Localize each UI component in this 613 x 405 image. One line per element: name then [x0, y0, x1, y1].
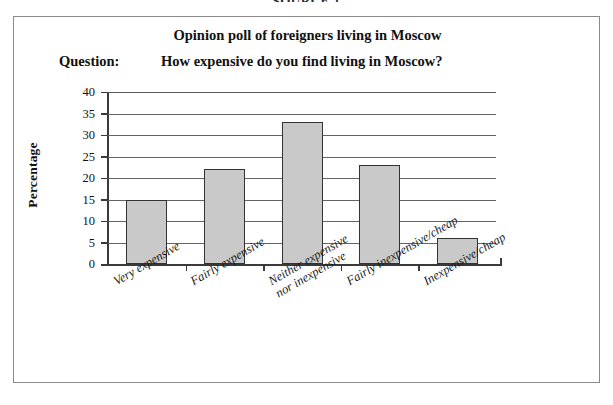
- y-tick-mark-15: [101, 199, 108, 201]
- y-tick-mark-5: [101, 242, 108, 244]
- y-tick-label-40: 40: [69, 86, 95, 98]
- y-axis-title: Percentage: [25, 125, 41, 225]
- y-tick-label-30: 30: [69, 129, 95, 141]
- x-tick-mark: [186, 264, 188, 271]
- gridline-40: [108, 92, 496, 93]
- y-tick-label-25: 25: [69, 151, 95, 163]
- y-tick-label-15: 15: [69, 194, 95, 206]
- bar-chart: Percentage 4035302520151050 Very expensi…: [14, 17, 601, 384]
- y-tick-label-0: 0: [69, 258, 95, 270]
- plot-area: [108, 92, 496, 264]
- x-tick-mark: [418, 264, 420, 271]
- y-tick-label-10: 10: [69, 215, 95, 227]
- x-axis-end-tick: [500, 258, 502, 266]
- x-tick-mark: [263, 264, 265, 271]
- y-tick-label-20: 20: [69, 172, 95, 184]
- chart-frame: Opinion poll of foreigners living in Mos…: [13, 16, 600, 383]
- y-tick-label-5: 5: [69, 237, 95, 249]
- x-tick-mark: [341, 264, 343, 271]
- y-tick-mark-40: [101, 92, 108, 94]
- gridline-35: [108, 114, 496, 115]
- y-tick-label-35: 35: [69, 108, 95, 120]
- y-tick-mark-35: [101, 113, 108, 115]
- source-header: SOURCE 1: [0, 0, 613, 2]
- y-tick-mark-25: [101, 156, 108, 158]
- y-tick-mark-10: [101, 221, 108, 223]
- y-tick-mark-0: [101, 264, 108, 266]
- bar: [282, 122, 323, 264]
- y-tick-mark-20: [101, 178, 108, 180]
- y-tick-mark-30: [101, 135, 108, 137]
